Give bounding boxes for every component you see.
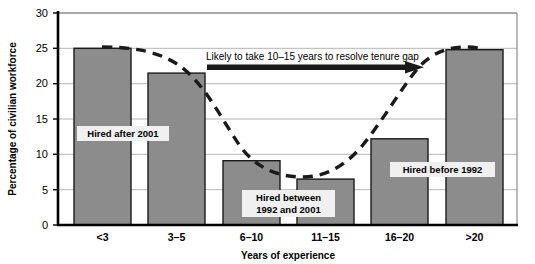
xtick-label-6-10: 6–10 [240, 231, 264, 243]
bar-16-20[interactable] [371, 139, 428, 225]
ytick-label-10: 10 [36, 148, 48, 160]
chart-container: 30 25 20 15 10 5 0 Percentage of civilia… [0, 0, 535, 264]
xtick-label-11-15: 11–15 [311, 231, 340, 243]
ytick-label-15: 15 [36, 113, 48, 125]
callout-between-line1: Hired between [256, 192, 321, 203]
ytick-label-5: 5 [42, 184, 48, 196]
xtick-label-gt20: >20 [466, 231, 484, 243]
callout-after-2001-label: Hired after 2001 [87, 128, 159, 139]
x-tick-labels: <3 3–5 6–10 11–15 16–20 >20 [97, 231, 484, 243]
xtick-label-3-5: 3–5 [168, 231, 186, 243]
x-axis-title: Years of experience [241, 250, 335, 261]
y-tick-labels: 30 25 20 15 10 5 0 [36, 7, 48, 231]
bar-3-5[interactable] [148, 73, 205, 225]
y-axis-title: Percentage of civilian workforce [7, 42, 18, 196]
bar-gt20[interactable] [446, 50, 503, 225]
ytick-label-20: 20 [36, 77, 48, 89]
callout-before-1992-label: Hired before 1992 [403, 164, 483, 175]
callout-between-line2: 1992 and 2001 [256, 204, 321, 215]
tenure-gap-bar-chart: 30 25 20 15 10 5 0 Percentage of civilia… [0, 0, 535, 264]
xtick-label-16-20: 16–20 [385, 231, 414, 243]
tenure-gap-label: Likely to take 10–15 years to resolve te… [206, 51, 419, 62]
ytick-label-30: 30 [36, 7, 48, 19]
arrow-shaft [207, 65, 411, 71]
ytick-label-0: 0 [42, 219, 48, 231]
callout-hired-after-2001: Hired after 2001 [77, 126, 169, 141]
ytick-label-25: 25 [36, 42, 48, 54]
xtick-label-lt3: <3 [97, 231, 109, 243]
callout-hired-before-1992: Hired before 1992 [390, 162, 495, 177]
callout-hired-between-1992-2001: Hired between 1992 and 2001 [242, 190, 335, 217]
